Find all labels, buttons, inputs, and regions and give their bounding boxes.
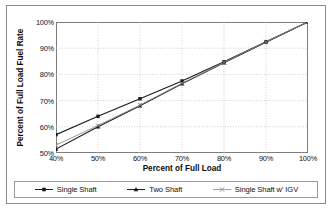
y-axis-tick-labels: 50%60%70%80%90%100%	[24, 22, 54, 153]
legend-label: Single Shaft w' IGV	[235, 185, 298, 194]
x-tick-label: 90%	[259, 154, 273, 163]
y-tick-label: 100%	[36, 18, 54, 27]
legend-label: Two Shaft	[149, 185, 182, 194]
series-line	[56, 22, 308, 135]
chart-figure: Percent of Full Load Fuel Rate 50%60%70%…	[0, 0, 332, 209]
y-tick-label: 80%	[40, 70, 54, 79]
x-tick-label: 40%	[49, 154, 63, 163]
data-point-marker	[96, 115, 99, 118]
legend-item-3[interactable]: Single Shaft w' IGV	[212, 185, 298, 194]
x-axis-title: Percent of Full Load	[56, 164, 308, 173]
y-tick-label: 70%	[40, 96, 54, 105]
legend-label: Single Shaft	[57, 185, 97, 194]
data-point-marker	[56, 133, 58, 136]
x-tick-label: 50%	[91, 154, 105, 163]
data-series-layer	[56, 22, 308, 153]
legend-item-2[interactable]: Two Shaft	[126, 185, 182, 194]
x-tick-label: 80%	[217, 154, 231, 163]
legend-marker-icon	[126, 185, 146, 194]
series-line	[56, 22, 308, 149]
legend-item-1[interactable]: Single Shaft	[34, 185, 97, 194]
y-tick-label: 90%	[40, 44, 54, 53]
x-tick-label: 60%	[133, 154, 147, 163]
x-tick-label: 100%	[299, 154, 317, 163]
y-tick-label: 60%	[40, 122, 54, 131]
plot-area-wrapper	[56, 22, 308, 153]
legend-marker-icon	[212, 185, 232, 194]
legend-marker-icon	[34, 185, 54, 194]
chart-legend: Single ShaftTwo ShaftSingle Shaft w' IGV	[14, 181, 318, 198]
x-tick-label: 70%	[175, 154, 189, 163]
data-point-marker	[138, 97, 141, 100]
